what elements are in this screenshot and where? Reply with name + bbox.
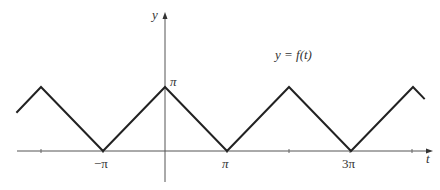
function-curve — [16, 87, 424, 151]
x-tick-pi-label: π — [222, 156, 229, 171]
y-axis-label: y — [150, 7, 158, 22]
t-axis-label: t — [426, 151, 430, 166]
function-label: y = f(t) — [273, 47, 312, 62]
x-tick-neg-pi-label: −π — [94, 156, 108, 171]
triangle-wave-chart: y t π −π π 3π y = f(t) — [0, 0, 440, 190]
y-tick-pi-label: π — [170, 74, 177, 89]
chart-svg: y t π −π π 3π y = f(t) — [0, 0, 440, 190]
y-axis-arrow-icon — [163, 12, 168, 19]
x-tick-3pi-label: 3π — [342, 156, 356, 171]
